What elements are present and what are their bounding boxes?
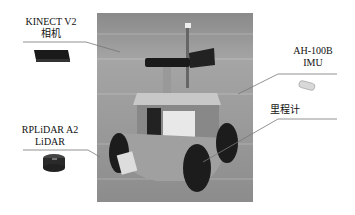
- lidar-icon: [0, 0, 355, 215]
